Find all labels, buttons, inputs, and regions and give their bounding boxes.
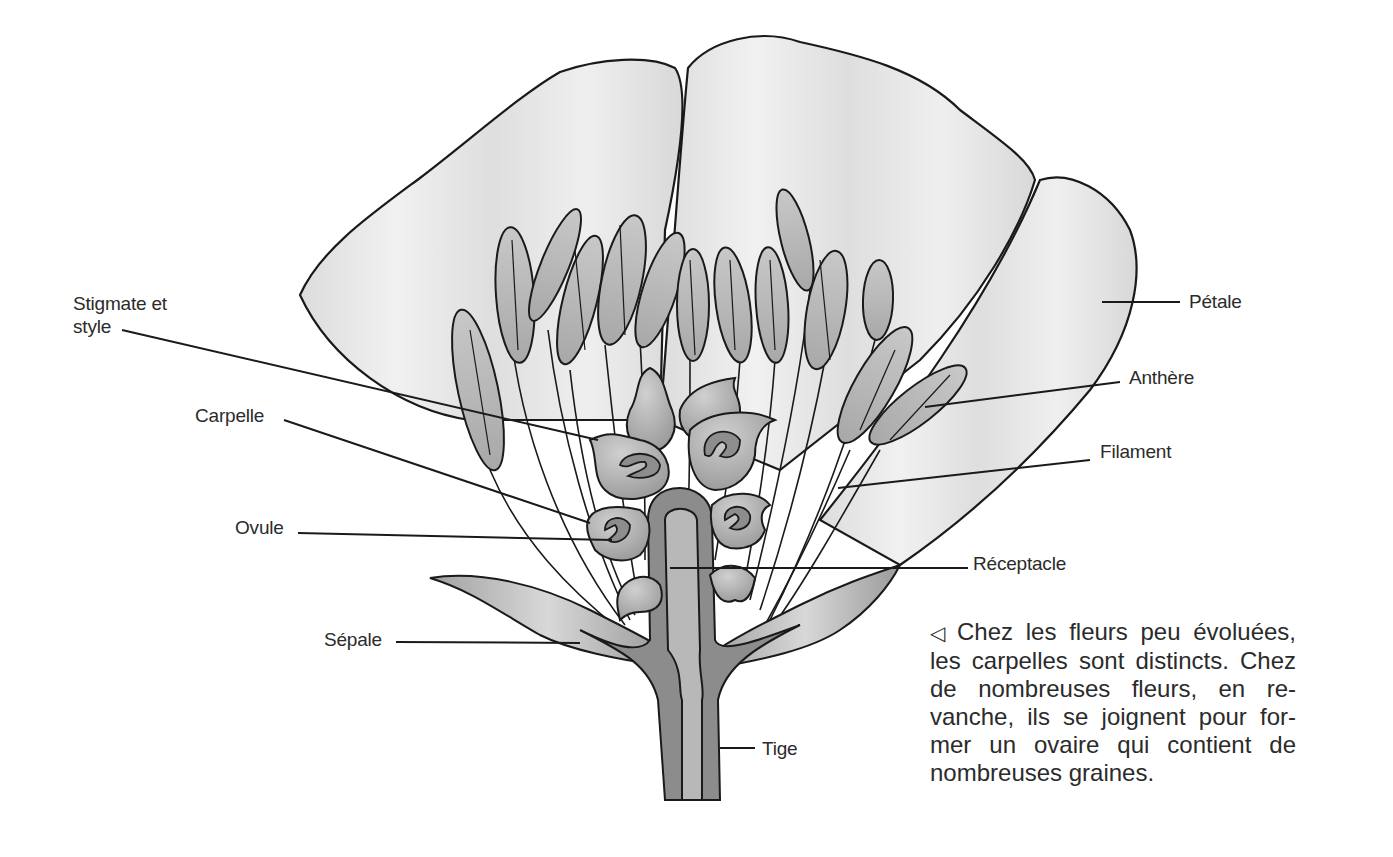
label-petale: Pétale (1189, 290, 1242, 313)
label-sepale: Sépale (324, 628, 382, 651)
caption: ◁Chez les fleurs peu évoluées, les carpe… (930, 618, 1296, 787)
label-anthere: Anthère (1129, 366, 1194, 389)
label-filament: Filament (1100, 440, 1171, 463)
caption-line-4: vanche, ils se joignent pour for- (930, 703, 1296, 731)
label-stigmate-line2: style (73, 315, 167, 338)
leader-ovule (298, 533, 612, 540)
caption-line-2: les carpelles sont distincts. Chez (930, 647, 1296, 675)
label-carpelle: Carpelle (195, 404, 264, 427)
label-tige: Tige (762, 737, 797, 760)
caption-text-1: Chez les fleurs peu évoluées, (957, 618, 1296, 645)
caption-line-1: ◁Chez les fleurs peu évoluées, (930, 618, 1296, 647)
label-stigmate-line1: Stigmate et (73, 292, 167, 315)
caption-line-5: mer un ovaire qui contient de (930, 731, 1296, 759)
caption-line-3: de nombreuses fleurs, en re- (930, 675, 1296, 703)
label-ovule: Ovule (235, 516, 284, 539)
leader-carpelle (284, 420, 590, 523)
triangle-left-icon: ◁ (930, 622, 951, 644)
leader-sepale (396, 642, 580, 643)
label-stigmate: Stigmate et style (73, 292, 167, 338)
caption-line-6: nombreuses graines. (930, 759, 1296, 787)
label-receptacle: Réceptacle (973, 552, 1066, 575)
